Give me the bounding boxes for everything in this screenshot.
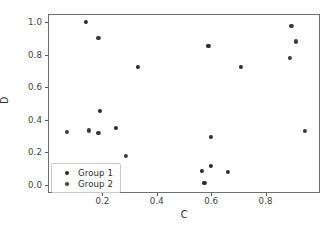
y-tick-mark [45,87,48,88]
y-tick-mark [45,185,48,186]
legend-item-group-1[interactable]: Group 1 [56,167,113,178]
y-axis-label: D [0,97,10,104]
y-tick-label: 0.8 [16,50,42,60]
legend-label: Group 1 [78,168,113,178]
legend[interactable]: Group 1 Group 2 [51,163,121,193]
legend-item-group-2[interactable]: Group 2 [56,178,113,189]
legend-label: Group 2 [78,179,113,189]
y-tick-mark [45,120,48,121]
legend-marker-icon [56,171,78,175]
y-tick-label: 0.2 [16,147,42,157]
x-axis-label: C [48,209,320,220]
x-tick-label: 0.4 [150,196,164,206]
x-tick-label: 0.6 [204,196,218,206]
y-tick-label: 1.0 [16,17,42,27]
legend-marker-icon [56,182,78,186]
x-tick-label: 0.2 [95,196,109,206]
y-tick-label: 0.4 [16,115,42,125]
scatter-plot-figure: 0.20.40.60.8 0.00.20.40.60.81.0 C D Grou… [0,0,335,228]
y-tick-mark [45,22,48,23]
x-tick-label: 0.8 [259,196,273,206]
y-tick-mark [45,55,48,56]
y-tick-label: 0.0 [16,180,42,190]
y-tick-label: 0.6 [16,82,42,92]
y-tick-mark [45,152,48,153]
